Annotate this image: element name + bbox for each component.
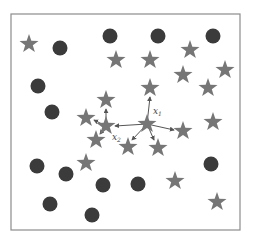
knn-diagram: x1x2 <box>0 0 253 243</box>
star-icon <box>137 114 156 132</box>
star-icon <box>96 90 115 108</box>
star-icon <box>148 138 167 156</box>
star-icon <box>140 78 159 96</box>
circle-point <box>30 159 45 174</box>
circle-point <box>96 178 111 193</box>
circle-point <box>43 197 58 212</box>
star-icon <box>173 65 192 83</box>
star-class-points <box>19 34 234 210</box>
star-icon <box>76 153 95 171</box>
star-icon <box>198 78 217 96</box>
circle-point <box>206 29 221 44</box>
circle-point <box>59 167 74 182</box>
plot-frame <box>11 14 240 230</box>
circle-point <box>151 29 166 44</box>
point-label-x1: x1 <box>153 106 162 117</box>
circle-point <box>204 157 219 172</box>
circle-point <box>53 41 68 56</box>
star-icon <box>19 34 38 52</box>
star-icon <box>180 40 199 58</box>
star-icon <box>118 137 137 155</box>
circle-point <box>131 177 146 192</box>
star-icon <box>165 171 184 189</box>
circle-point <box>45 105 60 120</box>
star-icon <box>207 192 226 210</box>
star-icon <box>140 50 159 68</box>
star-icon <box>203 112 222 130</box>
star-icon <box>86 130 105 148</box>
circle-point <box>85 208 100 223</box>
star-icon <box>215 60 234 78</box>
star-icon <box>76 108 95 126</box>
star-icon <box>173 121 192 139</box>
point-label-x2: x2 <box>112 132 121 143</box>
star-icon <box>106 50 125 68</box>
circle-point <box>103 29 118 44</box>
circle-point <box>31 79 46 94</box>
